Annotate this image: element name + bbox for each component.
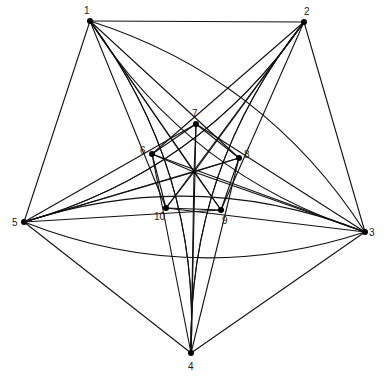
vertex-label-9: 9	[222, 215, 228, 226]
edge-6-7	[152, 124, 196, 154]
edge-4-5	[24, 222, 191, 353]
vertex-label-4: 4	[188, 361, 194, 372]
vertex-1	[87, 18, 93, 24]
vertex-label-3: 3	[369, 227, 375, 238]
graph-diagram: 12345678910	[0, 0, 387, 380]
vertex-label-2: 2	[304, 6, 310, 17]
vertex-9	[218, 207, 224, 213]
edge-1-2	[90, 21, 304, 22]
edges-layer	[24, 21, 365, 353]
edge-5-9	[24, 210, 221, 222]
edge-5-1	[24, 21, 90, 222]
vertex-label-1: 1	[84, 5, 90, 16]
vertex-2	[301, 19, 307, 25]
vertex-5	[21, 219, 27, 225]
vertex-label-5: 5	[12, 217, 18, 228]
curved-edge-5-2	[24, 22, 304, 222]
curved-edge-5-3	[24, 222, 365, 258]
vertex-label-10: 10	[154, 211, 166, 222]
vertex-3	[362, 229, 368, 235]
edge-7-8	[196, 124, 239, 158]
vertex-8	[236, 155, 242, 161]
vertex-4	[188, 350, 194, 356]
vertex-6	[149, 151, 155, 157]
vertex-label-6: 6	[140, 145, 146, 156]
vertex-c	[192, 170, 195, 173]
vertex-label-7: 7	[192, 108, 198, 119]
vertex-label-8: 8	[244, 149, 250, 160]
edge-3-4	[191, 232, 365, 353]
edge-5-7	[24, 124, 196, 222]
curved-edge-2-5	[24, 22, 304, 222]
vertex-7	[193, 121, 199, 127]
edge-2-3	[304, 22, 365, 232]
edge-8-9	[221, 158, 239, 210]
